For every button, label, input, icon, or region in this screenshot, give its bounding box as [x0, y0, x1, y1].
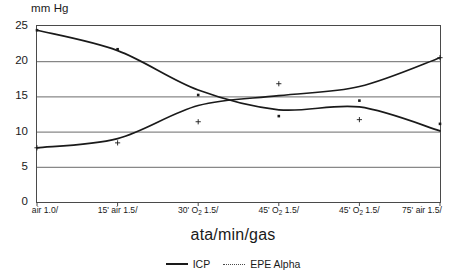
data-marker-square	[197, 94, 200, 97]
plot-frame	[37, 26, 441, 203]
y-tick-label: 10	[2, 126, 28, 138]
chart-container: mm Hg 0510152025 air 1.0/15' air 1.5/30'…	[0, 0, 466, 276]
data-marker-square	[278, 115, 281, 118]
legend-label-epe-alpha: EPE Alpha	[250, 258, 300, 270]
x-axis-title: ata/min/gas	[0, 226, 466, 244]
data-marker-square	[439, 123, 442, 126]
x-tick-label: 15' air 1.5/	[75, 206, 161, 215]
legend-label-icp: ICP	[193, 258, 211, 270]
data-marker-square	[36, 29, 39, 32]
x-tick-label: 45' O2 1.5/	[236, 206, 322, 215]
x-tick-label: 30' O2 1.5/	[155, 206, 241, 215]
x-tick-label: 75' air 1.5/	[379, 206, 465, 215]
y-tick-label: 5	[2, 161, 28, 173]
data-marker-square	[116, 48, 119, 51]
legend-item-epe-alpha: EPE Alpha	[223, 258, 300, 270]
y-tick-label: 25	[2, 20, 28, 32]
plot-frame-group	[37, 26, 441, 203]
data-marker-square	[358, 99, 361, 102]
legend-item-icp: ICP	[166, 258, 211, 270]
chart-legend: ICP EPE Alpha	[0, 258, 466, 270]
legend-line-solid-icon	[166, 263, 188, 265]
y-tick-label: 15	[2, 90, 28, 102]
legend-line-dotted-icon	[223, 264, 245, 265]
y-tick-label: 20	[2, 55, 28, 67]
